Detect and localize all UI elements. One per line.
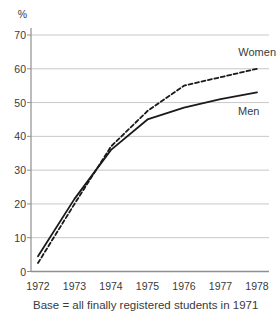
y-tick-label: 50 xyxy=(14,97,26,109)
y-axis-labels: 010203040506070 xyxy=(14,29,26,278)
series-label-men: Men xyxy=(238,105,259,117)
x-axis-labels: 1972197319741975197619771978 xyxy=(26,280,269,292)
chart-canvas: 010203040506070 197219731974197519761977… xyxy=(0,0,280,316)
y-axis-unit-label: % xyxy=(18,8,27,20)
x-tick-label: 1977 xyxy=(209,280,233,292)
series-line-men xyxy=(38,92,257,256)
series-lines xyxy=(38,69,257,263)
x-tick-label: 1972 xyxy=(26,280,50,292)
x-tick-label: 1974 xyxy=(99,280,123,292)
y-tick-label: 30 xyxy=(14,164,26,176)
line-chart-figure: 010203040506070 197219731974197519761977… xyxy=(0,0,280,316)
y-tick-label: 20 xyxy=(14,198,26,210)
x-tick-label: 1973 xyxy=(63,280,87,292)
y-tick-label: 0 xyxy=(20,266,26,278)
series-label-women: Women xyxy=(238,46,276,58)
y-tick-label: 70 xyxy=(14,29,26,41)
gridlines xyxy=(27,35,269,272)
caption: Base = all finally registered students i… xyxy=(33,299,258,311)
y-tick-label: 60 xyxy=(14,63,26,75)
x-tick-label: 1976 xyxy=(172,280,196,292)
y-tick-label: 40 xyxy=(14,130,26,142)
x-tick-label: 1975 xyxy=(136,280,160,292)
x-tick-label: 1978 xyxy=(245,280,269,292)
y-tick-label: 10 xyxy=(14,232,26,244)
